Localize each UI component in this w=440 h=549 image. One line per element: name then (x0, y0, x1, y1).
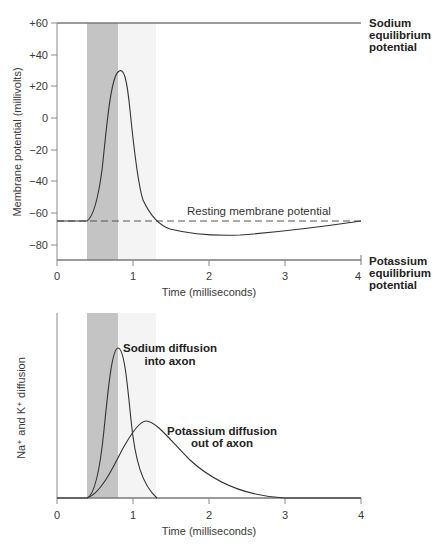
sodium-equilibrium-label: Sodium equilibrium potential (369, 17, 431, 53)
x-tick-label: 4 (358, 509, 364, 521)
x-tick-labels: 0 1 2 3 4 (54, 270, 361, 282)
potassium-diffusion-label: Potassium diffusion out of axon (167, 425, 277, 449)
x-tick-labels: 0 1 2 3 4 (54, 509, 364, 521)
svg-text:out of axon: out of axon (191, 437, 253, 449)
depolarization-shade (87, 313, 118, 498)
x-axis-title: Time (milliseconds) (162, 286, 256, 298)
x-tick-label: 0 (54, 270, 60, 282)
svg-text:potential: potential (369, 41, 417, 53)
ion-diffusion-chart: Na⁺ and K⁺ diffusion 0 1 2 3 4 Time (mil… (15, 313, 364, 537)
y-tick-label: 0 (42, 112, 48, 124)
x-ticks (57, 498, 361, 504)
x-tick-label: 0 (54, 509, 60, 521)
y-axis-title: Membrane potential (millivolts) (11, 67, 23, 216)
repolarization-shade (118, 313, 156, 498)
svg-text:Potassium diffusion: Potassium diffusion (167, 425, 277, 437)
action-potential-figure: +60 +40 +20 0 −20 −40 −60 −80 Membrane p… (0, 0, 440, 549)
depolarization-shade (87, 23, 118, 260)
y-tick-label: +60 (29, 17, 48, 29)
membrane-potential-chart: +60 +40 +20 0 −20 −40 −60 −80 Membrane p… (11, 17, 431, 298)
resting-potential-label: Resting membrane potential (187, 205, 331, 217)
x-tick-label: 1 (130, 270, 136, 282)
x-tick-label: 3 (282, 270, 288, 282)
y-tick-label: −40 (29, 175, 48, 187)
y-tick-label: +40 (29, 49, 48, 61)
x-axis-title: Time (milliseconds) (162, 525, 256, 537)
svg-text:equilibrium: equilibrium (369, 29, 431, 41)
svg-text:potential: potential (369, 279, 417, 291)
svg-text:Potassium: Potassium (369, 255, 427, 267)
repolarization-shade (118, 23, 156, 260)
y-tick-label: −60 (29, 207, 48, 219)
y-tick-label: −80 (29, 239, 48, 251)
y-tick-label: −20 (29, 144, 48, 156)
svg-text:into axon: into axon (144, 355, 195, 367)
y-tick-labels: +60 +40 +20 0 −20 −40 −60 −80 (29, 17, 48, 251)
x-tick-label: 1 (130, 509, 136, 521)
svg-text:Sodium diffusion: Sodium diffusion (123, 342, 217, 354)
svg-text:equilibrium: equilibrium (369, 267, 431, 279)
y-tick-label: +20 (29, 80, 48, 92)
svg-text:Sodium: Sodium (369, 17, 411, 29)
y-axis-title: Na⁺ and K⁺ diffusion (15, 357, 27, 459)
x-tick-label: 4 (355, 270, 361, 282)
x-tick-label: 2 (206, 509, 212, 521)
x-tick-label: 3 (282, 509, 288, 521)
x-ticks (57, 260, 285, 266)
x-tick-label: 2 (206, 270, 212, 282)
potassium-equilibrium-label: Potassium equilibrium potential (369, 255, 431, 291)
y-ticks (51, 23, 57, 245)
